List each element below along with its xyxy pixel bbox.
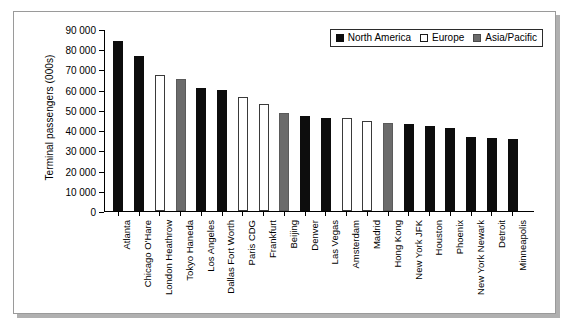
x-tick-slot — [170, 212, 191, 216]
x-axis-tick — [180, 212, 181, 216]
x-label-slot: Las Vegas — [316, 218, 337, 318]
bar — [321, 118, 331, 211]
x-tick-slot — [419, 212, 440, 216]
x-tick-slot — [378, 212, 399, 216]
bar-slot — [461, 30, 482, 211]
x-label-slot: Beijing — [274, 218, 295, 318]
bar-slot — [419, 30, 440, 211]
x-tick-slot — [233, 212, 254, 216]
y-axis-tick — [99, 131, 104, 132]
y-axis-tick-label: 20 000 — [65, 166, 96, 177]
x-label-slot: Denver — [295, 218, 316, 318]
x-label-slot: Chicago O'Hare — [129, 218, 150, 318]
x-axis-tick — [263, 212, 264, 216]
bar-slot — [150, 30, 171, 211]
bar-slot — [170, 30, 191, 211]
bar-slot — [295, 30, 316, 211]
bar-series — [105, 30, 526, 211]
x-label-slot: New York Newark — [462, 218, 483, 318]
bar — [113, 41, 123, 211]
x-axis-tick — [139, 212, 140, 216]
x-tick-slot — [108, 212, 129, 216]
x-axis-tick — [325, 212, 326, 216]
bar-slot — [378, 30, 399, 211]
x-axis-tick — [388, 212, 389, 216]
y-axis-title: Terminal passengers (000s) — [44, 23, 55, 213]
x-axis-tick — [222, 212, 223, 216]
bar-slot — [440, 30, 461, 211]
x-tick-slot — [336, 212, 357, 216]
bar-slot — [129, 30, 150, 211]
bar-chart: Terminal passengers (000s) 010 00020 000… — [14, 12, 555, 313]
y-axis-tick — [99, 70, 104, 71]
x-axis-tick — [491, 212, 492, 216]
y-axis-tick-label: 60 000 — [65, 85, 96, 96]
x-tick-slot — [502, 212, 523, 216]
bar — [342, 118, 352, 211]
legend-label: North America — [348, 32, 411, 44]
bar-slot — [336, 30, 357, 211]
bar — [196, 88, 206, 211]
x-tick-slot — [150, 212, 171, 216]
x-tick-slot — [212, 212, 233, 216]
bar — [362, 121, 372, 212]
bar-slot — [253, 30, 274, 211]
bar — [279, 113, 289, 211]
y-axis-tick — [99, 111, 104, 112]
x-label-slot: New York JFK — [399, 218, 420, 318]
x-axis-labels: AtlantaChicago O'HareLondon HeathrowToky… — [105, 218, 527, 318]
x-tick-slot — [191, 212, 212, 216]
bar-slot — [502, 30, 523, 211]
x-tick-slot — [295, 212, 316, 216]
x-axis-ticks — [105, 212, 526, 216]
bar-slot — [482, 30, 503, 211]
x-label-slot: Hong Kong — [378, 218, 399, 318]
y-axis-tick-label: 0 — [90, 207, 96, 218]
x-axis-tick — [471, 212, 472, 216]
x-axis-tick — [242, 212, 243, 216]
bar — [404, 124, 414, 211]
plot-area: 010 00020 00030 00040 00050 00060 00070 … — [104, 30, 526, 212]
x-axis-tick — [429, 212, 430, 216]
y-axis-tick — [99, 151, 104, 152]
bar-slot — [316, 30, 337, 211]
y-axis-tick — [99, 50, 104, 51]
x-label-slot: Atlanta — [108, 218, 129, 318]
x-tick-slot — [461, 212, 482, 216]
x-axis-tick — [118, 212, 119, 216]
x-label-slot: Amsterdam — [337, 218, 358, 318]
legend-item-na: North America — [336, 32, 411, 44]
x-label-slot: Tokyo Haneda — [170, 218, 191, 318]
x-label-slot: London Heathrow — [150, 218, 171, 318]
bar — [134, 56, 144, 211]
bar — [176, 79, 186, 211]
bar — [466, 137, 476, 211]
legend-label: Europe — [432, 32, 464, 44]
y-axis-tick — [99, 30, 104, 31]
x-tick-slot — [274, 212, 295, 216]
x-axis-tick — [159, 212, 160, 216]
x-axis-tick — [346, 212, 347, 216]
y-axis-tick-label: 80 000 — [65, 45, 96, 56]
y-axis-tick-label: 50 000 — [65, 105, 96, 116]
legend-swatch-icon — [473, 34, 481, 42]
legend-item-ap: Asia/Pacific — [473, 32, 537, 44]
bar-slot — [399, 30, 420, 211]
x-tick-slot — [440, 212, 461, 216]
x-tick-slot — [316, 212, 337, 216]
x-label-slot: Detroit — [482, 218, 503, 318]
x-label-slot: Phoenix — [441, 218, 462, 318]
bar — [217, 90, 227, 211]
bar — [300, 116, 310, 211]
legend-item-eu: Europe — [420, 32, 464, 44]
y-axis-tick-label: 70 000 — [65, 65, 96, 76]
x-tick-slot — [482, 212, 503, 216]
y-axis-tick-label: 90 000 — [65, 25, 96, 36]
y-axis-tick-label: 30 000 — [65, 146, 96, 157]
x-tick-slot — [129, 212, 150, 216]
figure-frame: Terminal passengers (000s) 010 00020 000… — [13, 11, 556, 314]
x-axis-tick — [305, 212, 306, 216]
x-axis-tick — [408, 212, 409, 216]
y-axis-tick — [99, 212, 104, 213]
bar-slot — [233, 30, 254, 211]
